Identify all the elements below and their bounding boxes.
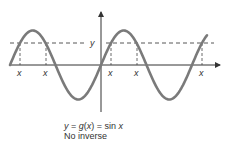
x-label-2: x xyxy=(42,68,48,78)
y-value-label: y xyxy=(89,38,95,48)
x-label-5: x xyxy=(198,68,204,78)
function-caption: y = g(x) = sin x xyxy=(64,121,123,131)
x-label-3: x xyxy=(107,68,113,78)
caption-eq2: = sin xyxy=(94,121,118,131)
caption-eq1: = xyxy=(69,121,79,131)
no-inverse-note: No inverse xyxy=(64,131,107,141)
x-label-4: x xyxy=(133,68,139,78)
caption-x: x xyxy=(119,121,124,131)
x-label-1: x xyxy=(16,68,22,78)
